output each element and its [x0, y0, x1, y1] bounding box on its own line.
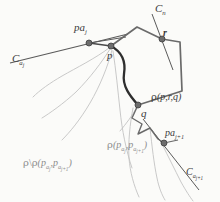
- label-rho-papaj1: ρ(paj,paj+1): [107, 140, 147, 154]
- label-c-aj-sub2: j: [23, 63, 25, 69]
- node-pa-j1: [161, 140, 167, 146]
- label-rho-papa-close: ): [144, 139, 147, 150]
- label-pa-j1-base: pa: [165, 127, 175, 138]
- label-rho-diff-mid: ,p: [50, 157, 58, 168]
- label-rho-difference: ρ\ρ(paj,paj+1): [23, 158, 72, 172]
- label-rho-papa-s2b: j+1: [136, 148, 143, 154]
- node-pa-j: [86, 40, 92, 46]
- label-pa-j1: paj+1: [165, 128, 184, 140]
- figure-canvas: paj p Caj Cn r q ρ(p,r,q) ρ(paj,paj+1) ρ…: [0, 0, 220, 202]
- label-p: p: [107, 50, 113, 61]
- label-pa-j-sub: j: [85, 28, 87, 35]
- label-c-aj-sub: aj: [19, 59, 24, 66]
- label-c-aj: Caj: [12, 53, 24, 69]
- label-c-n-sub: n: [162, 9, 165, 16]
- label-rho-diff-open: (p: [38, 157, 46, 168]
- label-rho-prq: ρ(p,r,q): [151, 92, 181, 102]
- label-r: r: [163, 28, 167, 38]
- label-pa-j: paj: [74, 22, 87, 36]
- label-rho-prq-args: (p,r,q): [157, 91, 181, 102]
- label-rho-diff-s2: aj+1: [58, 163, 68, 170]
- label-rho-papa-s2: aj+1: [133, 145, 143, 152]
- label-rho-diff-close: ): [68, 157, 71, 168]
- label-c-aj1-base: C: [186, 166, 193, 177]
- label-pa-j-base: pa: [74, 21, 85, 33]
- label-c-aj1-sub: aj+1: [193, 172, 203, 179]
- label-q-text: q: [141, 107, 147, 119]
- path-rho-p-to-q: [111, 46, 138, 105]
- path-q-to-paj1: [132, 105, 164, 143]
- label-c-n: Cn: [155, 3, 166, 17]
- label-q: q: [141, 108, 147, 119]
- label-pa-j1-sub: j+1: [175, 133, 184, 140]
- faint-curve-3: [62, 50, 112, 140]
- label-p-text: p: [107, 49, 113, 61]
- label-r-text: r: [163, 27, 167, 38]
- label-rho-papa-open: (p: [113, 139, 121, 150]
- faint-curve-group: [33, 48, 193, 201]
- label-c-aj1: Caj+1: [186, 167, 203, 181]
- label-c-aj1-sub2: j+1: [196, 175, 203, 181]
